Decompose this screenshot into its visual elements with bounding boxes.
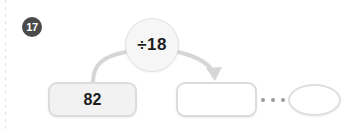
output-answer-box[interactable]	[176, 82, 257, 117]
final-oval-answer-field[interactable]	[288, 84, 341, 116]
input-to-operator-curve	[93, 52, 126, 82]
ellipsis-dot-1	[261, 98, 265, 102]
ellipsis-dot-2	[271, 98, 275, 102]
input-value-box: 82	[48, 82, 137, 117]
operator-circle: ÷18	[125, 18, 179, 72]
operator-to-output-curve	[178, 52, 214, 76]
ellipsis-dot-3	[281, 98, 285, 102]
ellipsis-dots	[261, 96, 285, 104]
worksheet-canvas: 17 ÷18 82	[0, 0, 354, 131]
operator-to-output-arrowhead	[206, 67, 222, 81]
operator-label: ÷18	[126, 19, 178, 71]
